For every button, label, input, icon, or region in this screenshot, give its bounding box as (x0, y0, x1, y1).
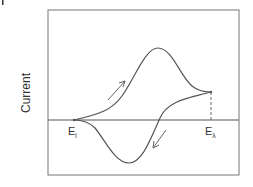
start-point-dot (73, 119, 75, 121)
y-axis-label: Current (19, 72, 33, 113)
reverse-arrow-icon (153, 130, 166, 148)
switching-potential-label: Eλ (205, 125, 216, 139)
forward-arrow-icon (108, 81, 125, 100)
switching-point-dot (210, 91, 212, 93)
reverse-scan-curve (74, 92, 211, 163)
panel-marker (2, 0, 4, 5)
start-potential-label: Ei (68, 125, 77, 139)
forward-scan-curve (74, 48, 211, 120)
cyclic-voltammogram: Ei Eλ Current (0, 0, 253, 187)
